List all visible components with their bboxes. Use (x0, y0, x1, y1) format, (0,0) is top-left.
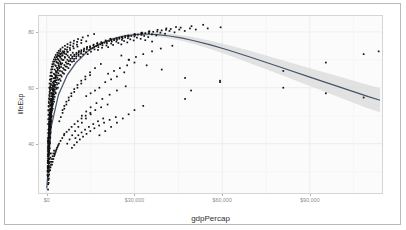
y-axis-title: lifeExp (17, 93, 24, 114)
y-tick-label: 60 (20, 85, 34, 91)
chart-frame: $0$30,000$60,000$90,000 406080 gdpPercap… (4, 3, 401, 225)
x-tick-label: $30,000 (125, 197, 144, 203)
x-tick-label: $0 (44, 197, 50, 203)
x-tick-mark (134, 194, 135, 196)
scatter-plot-layer (38, 15, 383, 194)
x-tick-label: $60,000 (212, 197, 231, 203)
y-tick-label: 40 (20, 141, 34, 147)
x-tick-mark (47, 194, 48, 196)
y-tick-mark (36, 88, 38, 89)
y-tick-label: 80 (20, 29, 34, 35)
loess-trend-line (47, 34, 380, 188)
x-tick-label: $90,000 (300, 197, 319, 203)
confidence-ribbon (47, 32, 380, 194)
y-tick-mark (36, 144, 38, 145)
x-tick-mark (222, 194, 223, 196)
y-tick-mark (36, 32, 38, 33)
x-axis-title: gdpPercap (38, 214, 383, 223)
x-tick-mark (310, 194, 311, 196)
